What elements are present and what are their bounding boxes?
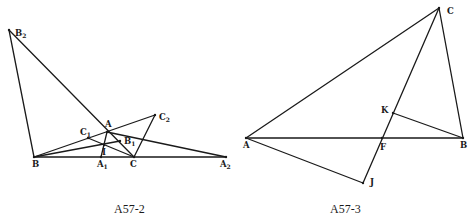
point-label-c2: C2 [159,112,170,123]
vertex-b [33,156,35,158]
point-label-b: B [32,159,39,169]
point-label-k: K [381,105,389,115]
vertex-b [462,137,464,139]
vertex-a [106,131,108,133]
segment-b-b1 [34,141,120,157]
point-label-f: F [380,142,386,152]
vertex-f [381,137,383,139]
vertex-k [392,112,394,114]
vertex-c2 [154,114,156,116]
point-label-a1: A1 [96,159,108,170]
segment-a-j [246,138,363,183]
segment-b2-b [9,30,34,157]
vertex-a [245,137,247,139]
point-label-c1: C1 [80,127,91,138]
figure-a57-2: B2BAC1C2B1IA1CA2A57-2 [8,28,231,216]
figure-a57-3: CABKFJA57-3 [242,6,467,216]
point-label-i: I [102,147,106,157]
point-label-c: C [130,159,137,169]
vertex-a1 [100,156,102,158]
point-label-a: A [104,119,112,129]
segment-b2-c [9,30,134,157]
point-label-a2: A2 [219,159,231,170]
segment-k-b [393,113,463,138]
point-label-a: A [242,140,250,150]
vertex-b1 [119,140,121,142]
vertex-i [103,144,105,146]
point-label-b2: B2 [15,28,26,39]
vertex-c [133,156,135,158]
point-label-b: B [460,140,467,150]
point-label-c: C [447,6,454,16]
vertex-b2 [8,29,10,31]
segment-c-b [439,8,463,138]
figure-caption: A57-3 [330,202,361,216]
vertex-a2 [225,156,227,158]
point-label-j: J [369,177,374,187]
figure-caption: A57-2 [114,202,145,216]
vertex-j [362,182,364,184]
vertex-c [438,7,440,9]
geometry-figures: B2BAC1C2B1IA1CA2A57-2 CABKFJA57-3 [0,0,471,222]
